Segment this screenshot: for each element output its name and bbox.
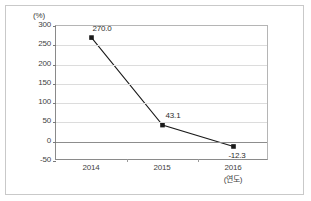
y-tick-label: 200 (38, 59, 51, 68)
x-axis-tick-labels: 201420152016(연도) (55, 163, 268, 193)
gridline (56, 122, 267, 123)
zero-line (56, 142, 267, 143)
y-tick-label: 100 (38, 97, 51, 106)
y-tick-label: 0 (47, 136, 51, 145)
y-tick-mark (53, 84, 56, 85)
chart-figure: (%) 300250200150100500-50 270.043.1-12.3… (0, 0, 311, 201)
x-axis-unit-label: (연도) (224, 173, 243, 184)
y-tick-mark (53, 26, 56, 27)
y-tick-mark (53, 161, 56, 162)
y-tick-label: 50 (43, 116, 52, 125)
gridline (56, 84, 267, 85)
x-tick-mark (127, 159, 128, 162)
plot-area: 270.043.1-12.3 (55, 25, 268, 160)
y-axis-tick-labels: 300250200150100500-50 (22, 25, 51, 160)
data-point-label: 270.0 (92, 24, 111, 33)
line-series (56, 26, 269, 161)
data-point-label: 43.1 (166, 111, 181, 120)
y-tick-label: 150 (38, 78, 51, 87)
gridline (56, 65, 267, 66)
data-point-marker (160, 123, 165, 128)
y-tick-mark (53, 103, 56, 104)
y-tick-label: -50 (40, 155, 51, 164)
y-tick-label: 250 (38, 39, 51, 48)
data-point-marker (231, 144, 236, 149)
y-axis-unit-label: (%) (33, 11, 45, 20)
x-tick-mark (198, 159, 199, 162)
y-tick-mark (53, 122, 56, 123)
series-line (92, 38, 234, 147)
x-tick-label: 2014 (83, 163, 100, 172)
y-tick-mark (53, 65, 56, 66)
x-tick-label: 2015 (154, 163, 171, 172)
gridline (56, 103, 267, 104)
y-tick-mark (53, 45, 56, 46)
x-tick-label: 2016 (225, 163, 242, 172)
gridline (56, 45, 267, 46)
y-tick-mark (53, 142, 56, 143)
y-tick-label: 300 (38, 20, 51, 29)
data-point-label: -12.3 (228, 151, 245, 160)
data-point-marker (89, 35, 94, 40)
